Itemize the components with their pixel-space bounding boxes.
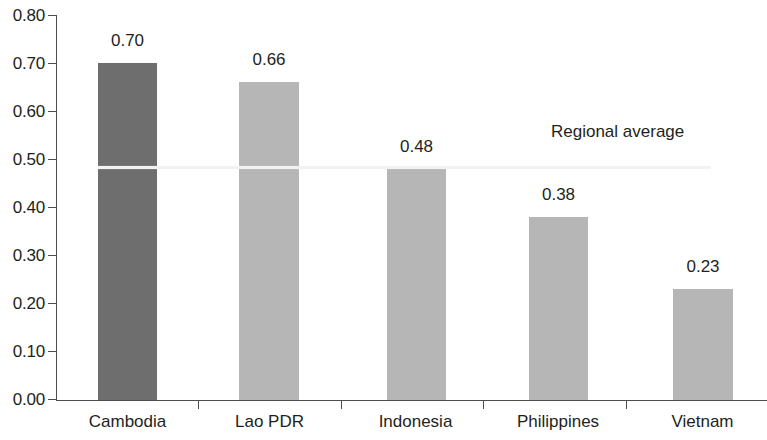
y-axis-tick-label: 0.20 [13, 295, 45, 312]
y-axis-tick-label: 0.60 [13, 103, 45, 120]
y-axis-tick-label: 0.80 [13, 7, 45, 24]
y-axis-tick [48, 63, 56, 64]
x-axis-tick [341, 400, 342, 409]
bar-indonesia [387, 169, 446, 400]
bar-value-lao-pdr: 0.66 [239, 51, 299, 68]
regional-average-label: Regional average [551, 122, 684, 141]
x-axis-label-vietnam: Vietnam [645, 412, 760, 431]
y-axis-tick [48, 399, 56, 400]
y-axis-tick [48, 207, 56, 208]
regional-average-line [98, 166, 711, 169]
y-axis-tick-label: 0.50 [13, 151, 45, 168]
y-axis-tick [48, 303, 56, 304]
x-axis-label-cambodia: Cambodia [70, 412, 185, 431]
bar-philippines [529, 217, 588, 400]
x-axis-label-lao-pdr: Lao PDR [212, 412, 327, 431]
y-axis-tick [48, 111, 56, 112]
x-axis-tick [198, 400, 199, 409]
bar-value-vietnam: 0.23 [673, 258, 733, 275]
y-axis-tick [48, 255, 56, 256]
x-axis-tick [626, 400, 627, 409]
y-axis-tick-label: 0.40 [13, 199, 45, 216]
bar-value-indonesia: 0.48 [387, 138, 446, 155]
bar-cambodia [98, 63, 157, 400]
y-axis-tick-label: 0.30 [13, 247, 45, 264]
bar-vietnam [673, 289, 733, 400]
y-axis-tick [48, 15, 56, 16]
x-axis-label-indonesia: Indonesia [358, 412, 473, 431]
x-axis-line [56, 400, 767, 401]
y-axis-tick [48, 351, 56, 352]
y-axis-tick [48, 159, 56, 160]
bar-value-philippines: 0.38 [529, 186, 588, 203]
x-axis-label-philippines: Philippines [499, 412, 617, 431]
bar-lao-pdr [239, 82, 299, 400]
y-axis-tick-label: 0.10 [13, 343, 45, 360]
bar-chart: 0.80 0.70 0.60 0.50 0.40 0.30 0.20 0.10 … [0, 0, 767, 440]
y-axis-tick-label: 0.00 [13, 391, 45, 408]
bar-value-cambodia: 0.70 [98, 32, 157, 49]
plot-area [56, 15, 767, 400]
x-axis-tick [483, 400, 484, 409]
y-axis-tick-label: 0.70 [13, 55, 45, 72]
